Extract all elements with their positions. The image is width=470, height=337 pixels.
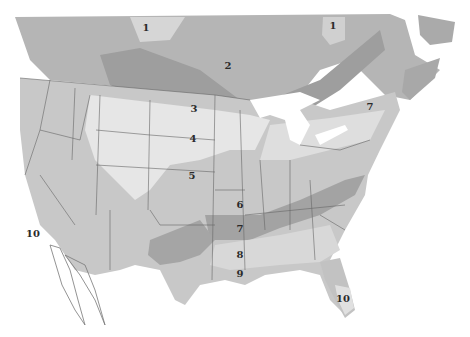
zone-label-5: 5 xyxy=(189,170,196,181)
zone-label-7: 7 xyxy=(367,101,374,112)
zone-label-3: 3 xyxy=(191,103,198,114)
zone-label-1: 1 xyxy=(330,20,337,31)
zone-label-7: 7 xyxy=(237,223,244,234)
zone-label-4: 4 xyxy=(190,133,197,144)
zone-label-6: 6 xyxy=(237,199,244,210)
zone-label-10: 10 xyxy=(26,228,40,239)
zone-label-2: 2 xyxy=(225,60,232,71)
zone-label-1: 1 xyxy=(143,22,150,33)
zone-label-8: 8 xyxy=(237,249,244,260)
zone-label-10: 10 xyxy=(336,293,350,304)
zone-label-9: 9 xyxy=(237,268,244,279)
hardiness-zone-map xyxy=(0,0,470,337)
